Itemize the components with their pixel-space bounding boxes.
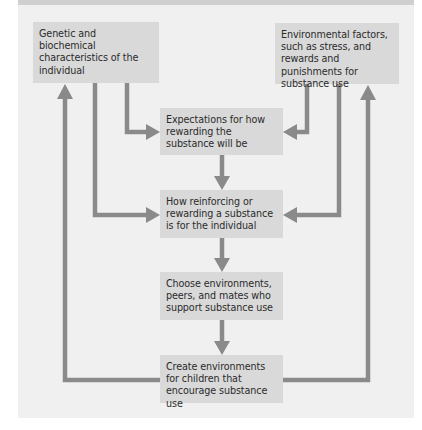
arrowhead-into-reinforcing (214, 176, 230, 190)
arrowhead-reinforcing-right (283, 207, 297, 223)
arrow-genetic-to-reinforcing (95, 83, 148, 215)
arrowhead-into-choose (214, 258, 230, 272)
node-expectations-label: Expectations for how rewarding the subst… (166, 114, 265, 149)
node-create-label: Create environments for children that en… (166, 361, 267, 409)
node-expectations: Expectations for how rewarding the subst… (160, 108, 283, 155)
node-genetic: Genetic and biochemical characteristics … (33, 22, 159, 83)
arrowhead-expectations-left (146, 124, 160, 140)
node-create: Create environments for children that en… (160, 355, 283, 403)
arrowhead-expectations-right (283, 124, 297, 140)
node-reinforcing-label: How reinforcing or rewarding a substance… (166, 196, 273, 231)
arrow-genetic-to-expectations (127, 83, 148, 132)
node-choose: Choose environments, peers, and mates wh… (160, 272, 283, 320)
node-genetic-label: Genetic and biochemical characteristics … (39, 28, 138, 76)
arrow-create-to-genetic (65, 98, 160, 380)
arrowhead-into-environmental (360, 85, 376, 100)
node-reinforcing: How reinforcing or rewarding a substance… (160, 190, 283, 238)
arrowhead-into-create (214, 341, 230, 355)
node-choose-label: Choose environments, peers, and mates wh… (166, 278, 273, 313)
arrowhead-into-genetic (57, 84, 73, 99)
node-environmental: Environmental factors, such as stress, a… (275, 23, 399, 84)
arrowhead-reinforcing-left (146, 207, 160, 223)
node-environmental-label: Environmental factors, such as stress, a… (281, 29, 388, 89)
arrow-environmental-to-reinforcing (295, 84, 339, 215)
arrow-create-to-environmental (283, 99, 368, 380)
